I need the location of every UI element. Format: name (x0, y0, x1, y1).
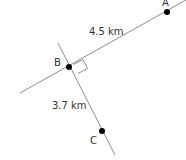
line-bc (58, 43, 115, 155)
label-c: C (90, 135, 97, 146)
point-a (164, 9, 170, 15)
label-b: B (54, 57, 61, 68)
point-b (66, 64, 72, 70)
label-ab-distance: 4.5 km (89, 26, 124, 37)
line-ab (20, 0, 186, 93)
label-a: A (162, 0, 169, 8)
label-bc-distance: 3.7 km (52, 100, 87, 111)
point-c (99, 128, 105, 134)
geometry-diagram: A B C 4.5 km 3.7 km (0, 0, 186, 160)
